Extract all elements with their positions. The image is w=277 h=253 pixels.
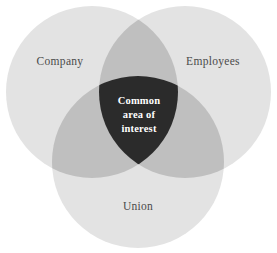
venn-diagram-canvas: Company Employees Union Common area of i… [0,0,277,253]
intersection-label-line-3: interest [121,123,157,134]
set-label-union: Union [123,200,153,212]
venn-diagram: Company Employees Union Common area of i… [0,0,277,253]
set-label-company: Company [37,55,84,68]
intersection-label-line-1: Common [118,95,161,106]
set-label-employees: Employees [186,55,240,68]
intersection-label-line-2: area of [123,109,156,120]
